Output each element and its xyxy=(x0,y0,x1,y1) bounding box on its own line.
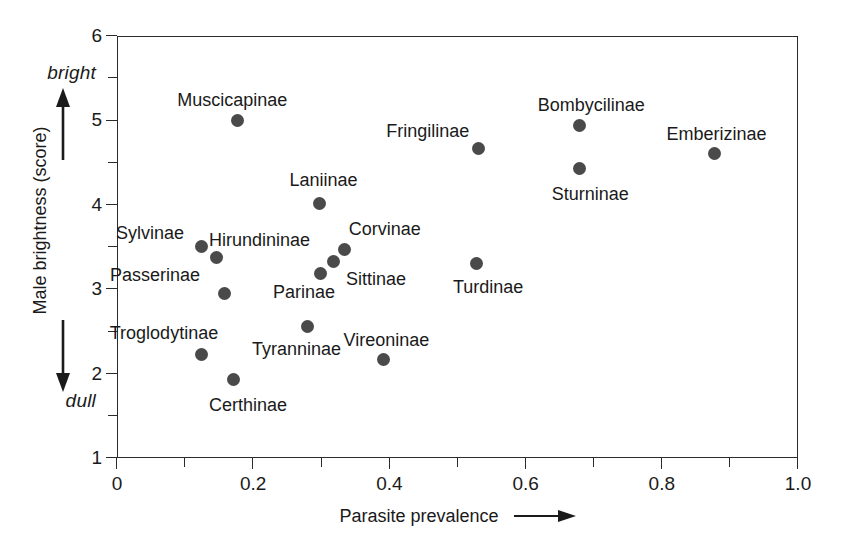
x-axis-minor-tick xyxy=(184,458,185,467)
y-axis-minor-tick xyxy=(108,162,117,163)
y-axis-minor-tick xyxy=(108,246,117,247)
x-axis-tick xyxy=(525,458,526,469)
x-axis-tick-label: 0.6 xyxy=(496,474,556,493)
data-point-label: Fringilinae xyxy=(386,122,469,140)
y-axis-minor-tick xyxy=(108,77,117,78)
x-axis-minor-tick xyxy=(593,458,594,467)
data-point-label: Sturninae xyxy=(552,185,629,203)
x-axis-title-block: Parasite prevalence xyxy=(117,505,798,527)
y-axis-tick xyxy=(106,35,117,36)
x-axis-minor-tick xyxy=(729,458,730,467)
data-point-label: Tyranninae xyxy=(252,340,341,358)
y-axis-bottom-annotation: dull xyxy=(0,390,96,412)
y-axis-title: Male brightness (score) xyxy=(30,71,51,371)
data-point xyxy=(314,267,327,280)
data-point xyxy=(227,373,240,386)
data-point xyxy=(327,255,340,268)
data-point-label: Sittinae xyxy=(346,270,406,288)
y-axis-minor-tick xyxy=(108,415,117,416)
x-axis-tick xyxy=(797,458,798,469)
x-axis-tick xyxy=(252,458,253,469)
data-point xyxy=(472,142,485,155)
data-point-label: Emberizinae xyxy=(667,125,767,143)
x-axis-tick-label: 0.8 xyxy=(632,474,692,493)
data-point xyxy=(195,348,208,361)
data-point-label: Sylvinae xyxy=(116,224,184,242)
y-axis-tick-label: 3 xyxy=(78,279,102,298)
y-axis-tick xyxy=(106,373,117,374)
data-point xyxy=(195,240,208,253)
data-point xyxy=(231,114,244,127)
data-point-label: Parinae xyxy=(273,283,335,301)
up-arrow-icon xyxy=(55,88,71,160)
y-axis-tick xyxy=(106,120,117,121)
data-point-label: Laniinae xyxy=(290,171,358,189)
data-point xyxy=(218,287,231,300)
data-point xyxy=(313,197,326,210)
x-axis-tick-label: 0.2 xyxy=(223,474,283,493)
data-point-label: Passerinae xyxy=(110,266,200,284)
data-point xyxy=(573,119,586,132)
data-point-label: Bombycilinae xyxy=(538,96,645,114)
y-axis-tick-label: 1 xyxy=(78,448,102,467)
y-axis-tick-label: 5 xyxy=(78,110,102,129)
data-point xyxy=(338,243,351,256)
x-axis-tick-label: 0.4 xyxy=(359,474,419,493)
data-point xyxy=(301,320,314,333)
data-point-label: Muscicapinae xyxy=(177,91,287,109)
data-point-label: Certhinae xyxy=(209,396,287,414)
data-point-label: Corvinae xyxy=(349,220,421,238)
x-axis-title: Parasite prevalence xyxy=(339,506,498,526)
data-point xyxy=(573,162,586,175)
y-axis-annotation-block: bright Male brightness (score) dull xyxy=(0,20,104,470)
data-point xyxy=(708,147,721,160)
data-point xyxy=(470,257,483,270)
y-axis-tick xyxy=(106,204,117,205)
y-axis-tick-label: 6 xyxy=(78,26,102,45)
data-point-label: Hirundininae xyxy=(209,231,310,249)
data-point-label: Troglodytinae xyxy=(110,324,218,342)
scatter-plot-figure: bright Male brightness (score) dull 1234… xyxy=(0,0,842,554)
y-axis-tick xyxy=(106,288,117,289)
x-axis-tick-label: 1.0 xyxy=(768,474,828,493)
y-axis-tick-label: 2 xyxy=(78,364,102,383)
data-point xyxy=(377,353,390,366)
x-axis-tick xyxy=(661,458,662,469)
data-point-label: Turdinae xyxy=(453,278,523,296)
x-axis-tick xyxy=(389,458,390,469)
plot-area: MuscicapinaeSylvinaeHirundininaePasserin… xyxy=(117,36,798,458)
x-axis-minor-tick xyxy=(321,458,322,467)
y-axis-tick-label: 4 xyxy=(78,195,102,214)
down-arrow-icon xyxy=(55,320,71,392)
data-point-label: Vireoninae xyxy=(344,331,430,349)
right-arrow-icon xyxy=(514,509,576,523)
x-axis-tick xyxy=(116,458,117,469)
x-axis-minor-tick xyxy=(457,458,458,467)
data-point xyxy=(210,251,223,264)
x-axis-tick-label: 0 xyxy=(87,474,147,493)
